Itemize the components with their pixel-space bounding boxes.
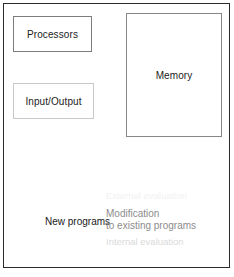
modification-line-1: Modification xyxy=(106,208,196,220)
diagram-frame: Processors Input/Output Memory External … xyxy=(3,3,230,268)
memory-label: Memory xyxy=(156,70,193,81)
annotation-cluster: External evaluation New programs Modific… xyxy=(4,186,231,266)
input-output-label: Input/Output xyxy=(25,96,81,107)
input-output-box: Input/Output xyxy=(13,83,94,119)
internal-evaluation-label: Internal evaluation xyxy=(106,236,184,248)
external-evaluation-label: External evaluation xyxy=(106,190,187,202)
new-programs-label: New programs xyxy=(45,216,110,228)
modification-line-2: to existing programs xyxy=(106,220,196,232)
modification-label: Modification to existing programs xyxy=(106,208,196,232)
processors-label: Processors xyxy=(27,29,78,40)
processors-box: Processors xyxy=(13,16,92,52)
memory-box: Memory xyxy=(126,13,222,137)
